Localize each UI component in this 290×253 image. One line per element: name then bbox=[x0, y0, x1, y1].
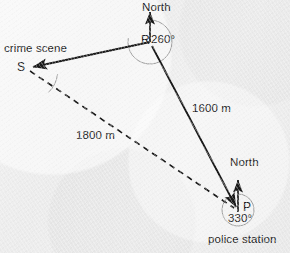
segment-r-to-p bbox=[152, 46, 236, 207]
bearing-label-p: 330° bbox=[228, 213, 252, 225]
point-label-s: S bbox=[17, 61, 25, 73]
segment-s-to-p-dashed bbox=[30, 71, 234, 208]
bearing-label-r: 260° bbox=[151, 34, 175, 46]
crime-scene-label: crime scene bbox=[4, 43, 67, 55]
police-station-label: police station bbox=[208, 234, 277, 246]
point-label-r: R bbox=[141, 34, 150, 46]
diagram-canvas: North North R 260° P 330° S crime scene … bbox=[0, 0, 290, 253]
north-label-p: North bbox=[230, 157, 259, 169]
distance-label-1600: 1600 m bbox=[192, 103, 231, 115]
angle-arc-s bbox=[49, 74, 58, 92]
north-label-r: North bbox=[142, 2, 171, 14]
distance-label-1800: 1800 m bbox=[76, 130, 115, 142]
